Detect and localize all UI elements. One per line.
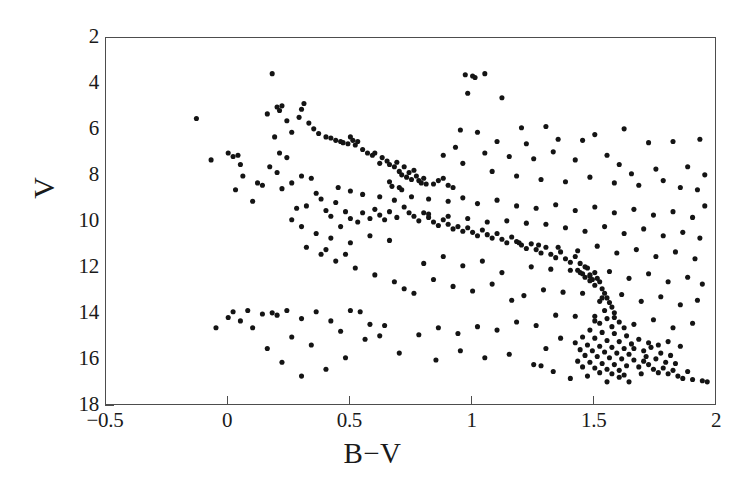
data-point (260, 311, 265, 316)
data-point (299, 173, 304, 178)
data-point (597, 370, 602, 375)
data-point (460, 229, 465, 234)
data-point (673, 361, 678, 366)
data-point (700, 282, 705, 287)
data-point (328, 136, 333, 141)
data-point (260, 183, 265, 188)
data-point (426, 211, 431, 216)
data-point (685, 369, 690, 374)
data-point (235, 153, 240, 158)
data-point (575, 359, 580, 364)
data-point (299, 374, 304, 379)
data-point (602, 291, 607, 296)
data-point (666, 371, 671, 376)
data-point (494, 139, 499, 144)
data-point (421, 261, 426, 266)
data-point (436, 325, 441, 330)
data-point (272, 134, 277, 139)
data-point (702, 203, 707, 208)
data-point (416, 218, 421, 223)
data-point (407, 210, 412, 215)
data-point (612, 362, 617, 367)
data-point (580, 138, 585, 143)
data-point (534, 206, 539, 211)
data-point (345, 141, 350, 146)
data-point (309, 343, 314, 348)
data-point (609, 345, 614, 350)
data-point (587, 272, 592, 277)
data-point (377, 194, 382, 199)
data-point (194, 116, 199, 121)
data-point (604, 295, 609, 300)
data-point (490, 236, 495, 241)
data-point (277, 108, 282, 113)
data-point (431, 277, 436, 282)
data-point (529, 241, 534, 246)
y-tick-label-wrap: 4 (57, 72, 99, 93)
data-point (622, 126, 627, 131)
data-point (441, 217, 446, 222)
data-point (455, 224, 460, 229)
data-point (612, 315, 617, 320)
data-point (245, 308, 250, 313)
data-point (597, 344, 602, 349)
data-point (255, 180, 260, 185)
data-point (538, 177, 543, 182)
data-point (631, 207, 636, 212)
data-point (397, 351, 402, 356)
data-point (695, 298, 700, 303)
data-point (573, 208, 578, 213)
data-point (460, 161, 465, 166)
data-point (355, 219, 360, 224)
data-point (575, 248, 580, 253)
data-point (231, 154, 236, 159)
data-point (275, 313, 280, 318)
data-point (279, 103, 284, 108)
data-point (275, 170, 280, 175)
data-point (372, 207, 377, 212)
data-point (622, 346, 627, 351)
y-tick-label-wrap: 8 (57, 164, 99, 185)
data-point (556, 137, 561, 142)
data-point (409, 177, 414, 182)
x-tick-label: 0 (187, 410, 267, 431)
data-point (499, 270, 504, 275)
data-point (475, 324, 480, 329)
x-tick-label: 1.5 (554, 410, 634, 431)
data-point (697, 137, 702, 142)
data-point (301, 101, 306, 106)
data-point (646, 340, 651, 345)
y-tick-label-wrap: 2 (57, 26, 99, 47)
data-point (389, 184, 394, 189)
data-point (504, 218, 509, 223)
data-point (597, 321, 602, 326)
data-point (402, 286, 407, 291)
data-point (238, 318, 243, 323)
data-point (304, 203, 309, 208)
data-point (240, 173, 245, 178)
data-point (277, 150, 282, 155)
data-point (363, 337, 368, 342)
data-point (499, 237, 504, 242)
data-point (475, 201, 480, 206)
data-point (622, 372, 627, 377)
data-point (582, 275, 587, 280)
data-point (455, 331, 460, 336)
data-point (343, 355, 348, 360)
data-point (524, 141, 529, 146)
x-tick-mark (227, 396, 228, 405)
data-point (475, 233, 480, 238)
data-point (507, 352, 512, 357)
data-point (504, 240, 509, 245)
data-point (316, 131, 321, 136)
data-point (431, 182, 436, 187)
data-point (675, 374, 680, 379)
data-point (551, 149, 556, 154)
data-point (451, 185, 456, 190)
x-tick-mark (593, 396, 594, 405)
data-point (626, 352, 631, 357)
data-point (536, 242, 541, 247)
y-tick-label: 8 (57, 164, 99, 185)
data-point (233, 187, 238, 192)
data-point (558, 249, 563, 254)
